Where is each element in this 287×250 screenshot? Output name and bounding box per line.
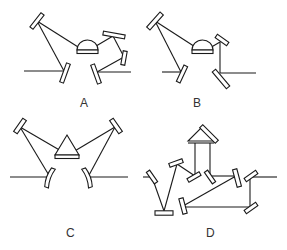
prism-base — [55, 155, 79, 159]
mirror-lower-left — [179, 198, 187, 215]
mirror-fold-left — [187, 172, 201, 182]
beam — [20, 127, 50, 177]
curved-mirror-lower-left — [43, 167, 55, 188]
beam — [164, 164, 177, 211]
mirror-upper-right — [110, 118, 123, 134]
panel-label-d: D — [206, 227, 215, 239]
mirror-lower-right — [212, 69, 230, 89]
crystal-base — [77, 50, 98, 54]
beam — [37, 21, 64, 71]
crystal-base — [192, 50, 213, 54]
panel-b — [147, 12, 256, 89]
beam — [177, 164, 195, 176]
beam — [155, 21, 181, 72]
mirror-bottom — [155, 211, 173, 215]
mirror-output — [244, 170, 258, 181]
panel-label-c: C — [66, 227, 75, 239]
mirror-right — [233, 169, 242, 188]
panel-d — [143, 125, 277, 216]
mirror-lower-right — [244, 202, 258, 213]
panel-a — [24, 13, 131, 84]
prism-crystal — [55, 135, 79, 155]
hemisphere-crystal — [77, 40, 98, 50]
mirror-lower-right — [91, 64, 102, 84]
beam — [97, 57, 124, 72]
panel-label-a: A — [80, 97, 88, 109]
mirror-lower-left — [176, 65, 187, 83]
panel-c — [10, 118, 128, 188]
diagram-canvas — [0, 0, 287, 250]
mirror-upper-left — [14, 118, 27, 134]
mirror-upper-left — [30, 13, 44, 30]
hemisphere-crystal — [192, 40, 213, 50]
panel-label-b: B — [193, 97, 201, 109]
mirror-upper-left — [147, 12, 164, 30]
